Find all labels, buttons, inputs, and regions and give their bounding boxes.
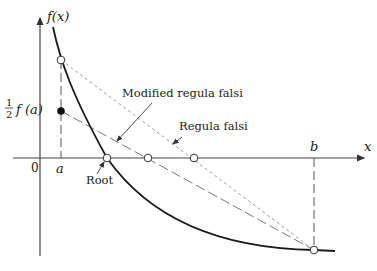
root-label: Root (86, 173, 114, 187)
half-denominator: 2 (6, 109, 12, 120)
a-label: a (56, 161, 64, 176)
regula-intercept-point (190, 154, 198, 162)
half-fa-point (57, 107, 65, 115)
regula-pointer (173, 137, 182, 144)
half-fa-label: f (a) (15, 102, 43, 117)
regula-falsi-label: Regula falsi (179, 119, 248, 133)
modified-pointer (117, 103, 152, 141)
half-numerator: 1 (6, 97, 12, 108)
diagram: f(x) x 0 a b 1 2 f (a) Modified regula f… (0, 0, 377, 271)
modified-regula-falsi-label: Modified regula falsi (122, 86, 243, 100)
y-axis-label: f(x) (46, 9, 69, 24)
x-axis-label: x (364, 139, 372, 154)
function-curve (53, 27, 335, 251)
origin-label: 0 (31, 161, 39, 175)
fb-point (310, 246, 318, 254)
fa-point (57, 56, 65, 64)
root-point (103, 154, 111, 162)
modified-intercept-point (144, 154, 152, 162)
b-label: b (310, 139, 318, 154)
